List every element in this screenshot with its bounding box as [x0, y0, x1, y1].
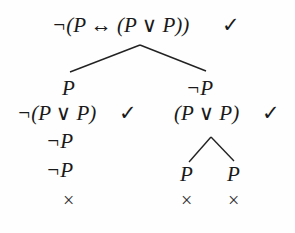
- edge-root-to-left: [70, 45, 140, 72]
- left-node-not-disjunction: ¬(P ∨ P): [17, 103, 96, 124]
- right-sub-right-closed-cross: ×: [228, 190, 239, 210]
- right-node-disjunction: (P ∨ P): [174, 103, 239, 124]
- root-formula: ¬(P ↔ (P ∨ P)): [52, 15, 189, 36]
- edge-disjunction-to-left-p: [189, 137, 211, 162]
- right-sub-right-p: P: [227, 164, 240, 185]
- right-node-not-p: ¬P: [186, 78, 213, 99]
- left-branch-closed-cross: ×: [63, 190, 74, 210]
- right-sub-left-closed-cross: ×: [181, 190, 192, 210]
- edge-root-to-right: [140, 45, 206, 71]
- edge-disjunction-to-right-p: [211, 137, 234, 161]
- right-disjunction-check-mark: ✓: [262, 103, 280, 124]
- right-sub-left-p: P: [180, 164, 193, 185]
- left-node-not-p-2: ¬P: [46, 160, 73, 181]
- left-disjunction-check-mark: ✓: [119, 103, 137, 124]
- root-check-mark: ✓: [222, 15, 240, 36]
- truth-tree-diagram: ¬(P ↔ (P ∨ P)) ✓ P ¬(P ∨ P) ✓ ¬P ¬P × ¬P…: [0, 0, 295, 233]
- left-node-not-p-1: ¬P: [46, 131, 73, 152]
- left-node-p: P: [62, 78, 75, 99]
